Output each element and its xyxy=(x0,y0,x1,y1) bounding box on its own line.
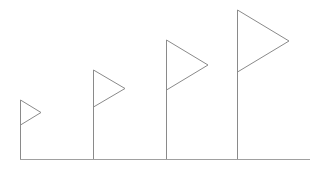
flag-pennant-icon xyxy=(167,40,209,90)
flags-diagram xyxy=(0,0,322,170)
flags-svg xyxy=(0,0,322,170)
flag-pennant-icon xyxy=(94,70,126,107)
flag-pennant-icon xyxy=(21,100,42,125)
flags-group xyxy=(21,10,290,160)
flag-1 xyxy=(21,100,42,160)
flag-2 xyxy=(94,70,126,160)
flag-3 xyxy=(167,40,209,160)
flag-pennant-icon xyxy=(238,10,290,72)
flag-4 xyxy=(238,10,290,160)
